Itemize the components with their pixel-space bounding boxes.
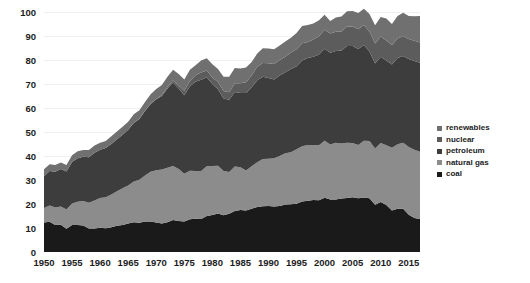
x-tick-label: 1985 bbox=[230, 257, 252, 268]
legend-swatch-icon bbox=[437, 160, 442, 165]
legend-swatch-icon bbox=[437, 149, 442, 154]
x-tick-label: 1975 bbox=[174, 257, 196, 268]
legend-item-label: coal bbox=[446, 170, 462, 178]
x-tick-label: 1960 bbox=[90, 257, 111, 268]
legend-item-label: nuclear bbox=[446, 136, 474, 144]
y-tick-label: 60 bbox=[25, 103, 36, 114]
legend-swatch-icon bbox=[437, 126, 442, 131]
y-tick-label: 10 bbox=[25, 223, 36, 234]
x-tick-label: 1980 bbox=[202, 257, 223, 268]
legend-item-coal[interactable]: coal bbox=[437, 170, 527, 178]
legend-item-label: petroleum bbox=[446, 147, 485, 155]
y-tick-label: 0 bbox=[31, 247, 36, 258]
x-tick-label: 1995 bbox=[286, 257, 308, 268]
plot-area: 0102030405060708090100 19501955196019651… bbox=[0, 0, 430, 283]
legend-item-renewables[interactable]: renewables bbox=[437, 124, 527, 132]
x-tick-label: 2000 bbox=[314, 257, 335, 268]
legend-item-natural-gas[interactable]: natural gas bbox=[437, 159, 527, 167]
y-tick-label: 70 bbox=[25, 79, 36, 90]
legend-item-label: natural gas bbox=[446, 159, 489, 167]
chart-legend: renewablesnuclearpetroleumnatural gascoa… bbox=[437, 124, 527, 178]
area-series-group bbox=[44, 9, 420, 252]
legend-swatch-icon bbox=[437, 172, 442, 177]
x-tick-label: 1990 bbox=[258, 257, 279, 268]
y-tick-label: 100 bbox=[20, 7, 36, 18]
x-axis-ticks: 1950195519601965197019751980198519901995… bbox=[33, 257, 420, 268]
y-tick-label: 50 bbox=[25, 127, 36, 138]
y-axis-ticks: 0102030405060708090100 bbox=[20, 7, 36, 258]
legend-item-label: renewables bbox=[446, 124, 490, 132]
chart-container: 0102030405060708090100 19501955196019651… bbox=[0, 0, 530, 283]
x-tick-label: 2010 bbox=[370, 257, 391, 268]
legend-swatch-icon bbox=[437, 137, 442, 142]
y-tick-label: 30 bbox=[25, 175, 36, 186]
y-tick-label: 20 bbox=[25, 199, 36, 210]
y-tick-label: 90 bbox=[25, 31, 36, 42]
y-tick-label: 80 bbox=[25, 55, 36, 66]
y-tick-label: 40 bbox=[25, 151, 36, 162]
x-tick-label: 2005 bbox=[342, 257, 364, 268]
legend-item-nuclear[interactable]: nuclear bbox=[437, 136, 527, 144]
x-tick-label: 1965 bbox=[118, 257, 140, 268]
x-tick-label: 1970 bbox=[146, 257, 167, 268]
stacked-area-chart: 0102030405060708090100 19501955196019651… bbox=[0, 0, 430, 283]
x-tick-label: 2015 bbox=[398, 257, 420, 268]
x-tick-label: 1950 bbox=[33, 257, 54, 268]
legend-item-petroleum[interactable]: petroleum bbox=[437, 147, 527, 155]
x-tick-label: 1955 bbox=[61, 257, 83, 268]
